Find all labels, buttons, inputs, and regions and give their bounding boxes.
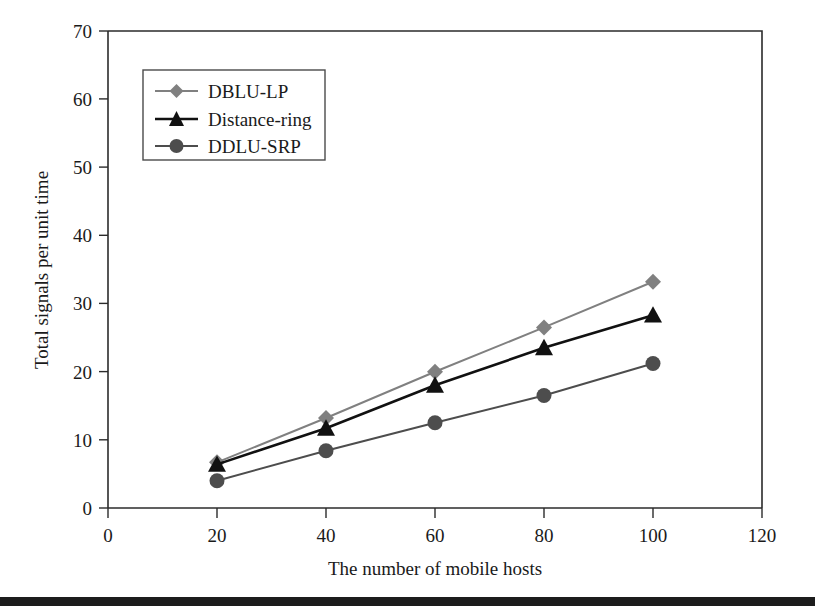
diamond-marker-icon [536,319,552,335]
x-tick-marks [108,508,762,518]
legend-label-distance-ring: Distance-ring [208,109,312,130]
figure-container: 0 10 20 30 40 50 60 70 0 20 40 60 80 100 [0,0,815,612]
x-tick-label-40: 40 [317,525,336,546]
x-tick-label-80: 80 [535,525,554,546]
series-dblu-lp [209,274,661,471]
y-tick-label-10: 10 [73,430,92,451]
y-tick-marks [99,31,108,508]
x-tick-label-60: 60 [426,525,445,546]
x-tick-labels: 0 20 40 60 80 100 120 [103,525,776,546]
y-axis-title: Total signals per unit time [31,171,52,369]
triangle-marker-icon [644,306,662,322]
y-tick-label-60: 60 [73,89,92,110]
y-tick-label-70: 70 [73,21,92,42]
circle-marker-icon [646,356,661,371]
triangle-marker-icon [317,419,335,435]
y-tick-label-50: 50 [73,157,92,178]
x-tick-label-0: 0 [103,525,113,546]
x-tick-label-20: 20 [208,525,227,546]
x-axis-title: The number of mobile hosts [328,558,542,579]
y-tick-label-40: 40 [73,225,92,246]
series-distance-ring [208,306,662,472]
bottom-decorative-bar [0,597,815,606]
circle-marker-icon [319,443,334,458]
diamond-marker-icon [645,274,661,290]
circle-marker-icon [170,139,184,153]
circle-marker-icon [210,473,225,488]
x-tick-label-120: 120 [748,525,777,546]
y-tick-label-0: 0 [83,498,93,519]
legend: DBLU-LP Distance-ring DDLU-SRP [143,70,325,160]
circle-marker-icon [537,388,552,403]
y-tick-label-20: 20 [73,362,92,383]
legend-label-dblu-lp: DBLU-LP [208,81,288,102]
legend-label-ddlu-srp: DDLU-SRP [208,136,301,157]
y-tick-label-30: 30 [73,293,92,314]
series-layer [208,274,662,488]
x-tick-label-100: 100 [639,525,668,546]
y-tick-labels: 0 10 20 30 40 50 60 70 [73,21,92,519]
circle-marker-icon [428,415,443,430]
line-chart: 0 10 20 30 40 50 60 70 0 20 40 60 80 100 [0,0,815,612]
